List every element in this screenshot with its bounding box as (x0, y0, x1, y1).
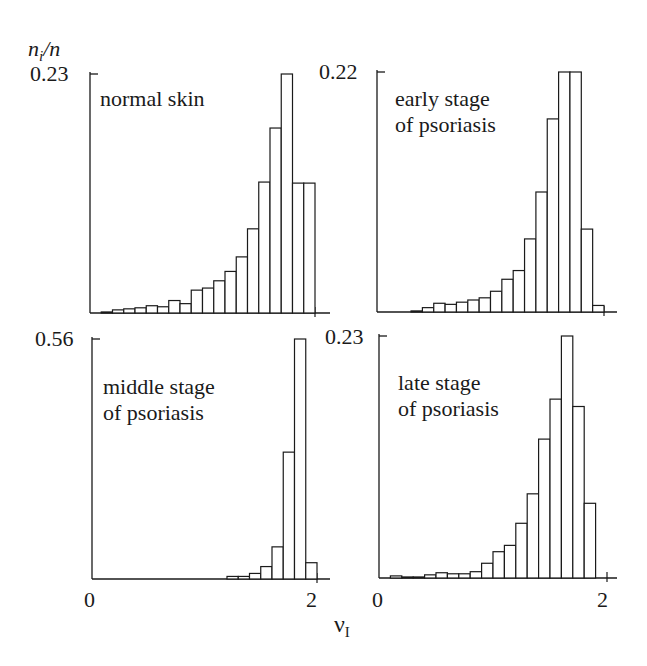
panel-1-title: normal skin (100, 86, 205, 112)
histogram-bar (536, 192, 547, 312)
histogram-bar (470, 572, 481, 578)
histogram-bar (456, 302, 467, 312)
histogram-bar (225, 271, 236, 313)
histogram-bar (238, 576, 249, 579)
histogram-bar (261, 567, 272, 579)
panel-1-ymax-label: 0.23 (30, 63, 69, 85)
x-axis-label: νI (334, 612, 350, 640)
histogram-bar (482, 563, 493, 578)
histogram-bar (135, 308, 146, 313)
histogram-bar (259, 182, 270, 313)
histogram-bar (547, 119, 558, 312)
panel-4-xtick-0: 0 (372, 589, 383, 611)
histogram-bar (306, 563, 317, 579)
x-axis-label-nu: ν (334, 611, 345, 637)
histogram-bar (513, 271, 524, 312)
histogram-bar (434, 303, 445, 312)
panel-4-ymax-label: 0.23 (325, 326, 364, 348)
histogram-bar (283, 452, 294, 579)
histogram-bar (293, 183, 304, 313)
histogram-bar (113, 310, 124, 313)
histogram-bar (559, 72, 570, 312)
histogram-bar (124, 309, 135, 313)
histogram-bar (411, 311, 422, 312)
histogram-bar (169, 301, 180, 313)
histogram-figure: ni/n 0.23 normal skin 0.22 early stage o… (0, 0, 647, 666)
histogram-bar (402, 577, 413, 578)
histogram-bar (214, 281, 225, 313)
histogram-bar (561, 336, 572, 578)
histogram-bar (459, 574, 470, 578)
histogram-bar (295, 339, 306, 579)
histogram-bar (281, 74, 292, 313)
histogram-bar (504, 545, 515, 578)
panel-3-ymax-label: 0.56 (35, 328, 74, 350)
histogram-bar (425, 575, 436, 578)
panel-3-xtick-2: 2 (306, 589, 317, 611)
histogram-bar (516, 523, 527, 578)
histogram-bar (468, 300, 479, 312)
histogram-bar (584, 503, 595, 578)
histogram-bar (248, 229, 259, 313)
histogram-bar (436, 573, 447, 578)
histogram-bar (413, 577, 424, 578)
histogram-bar (158, 307, 169, 313)
histogram-bar (550, 399, 561, 578)
histogram-bar (191, 290, 202, 313)
histogram-bar (593, 305, 604, 312)
histogram-bar (250, 573, 261, 579)
histogram-bar (272, 547, 283, 579)
y-axis-label-n: n (28, 36, 39, 61)
histogram-bar (479, 298, 490, 312)
panel-2-title: early stage of psoriasis (395, 86, 496, 138)
histogram-bar (270, 128, 281, 313)
x-axis-label-sub: I (345, 624, 350, 640)
histogram-bar (525, 239, 536, 312)
histogram-bar (390, 576, 401, 578)
panel-4-title: late stage of psoriasis (398, 370, 499, 422)
histogram-bar (422, 308, 433, 312)
histogram-bar (445, 304, 456, 312)
y-axis-label-rest: /n (43, 36, 60, 61)
histogram-bar (539, 439, 550, 578)
histogram-bar (447, 574, 458, 578)
histogram-plots (0, 0, 647, 666)
histogram-bar (502, 279, 513, 312)
histogram-bar (304, 183, 315, 313)
panel-3-xtick-0: 0 (84, 589, 95, 611)
histogram-bar (146, 306, 157, 313)
panel-4-xtick-2: 2 (597, 589, 608, 611)
histogram-bar (491, 291, 502, 312)
histogram-bar (570, 72, 581, 312)
panel-2-ymax-label: 0.22 (319, 61, 358, 83)
panel-3-title: middle stage of psoriasis (103, 374, 215, 426)
histogram-bar (227, 576, 238, 579)
histogram-bar (180, 304, 191, 313)
histogram-bar (493, 552, 504, 578)
histogram-bar (527, 494, 538, 578)
histogram-bar (236, 257, 247, 313)
histogram-bar (573, 407, 584, 579)
histogram-bar (101, 312, 112, 313)
histogram-bar (203, 288, 214, 313)
histogram-bar (581, 229, 592, 312)
